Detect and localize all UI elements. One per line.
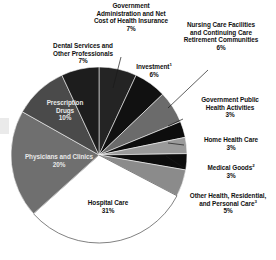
slice-label-government-public-health: Government Public Health Activities 3%: [184, 96, 276, 119]
label-line-2: and Continuing Care: [190, 29, 252, 36]
footnote-marker: 3: [254, 198, 256, 203]
label-line-1: Government Public: [201, 96, 259, 103]
label-line-1: Nursing Care Facilities: [187, 21, 255, 28]
slice-label-dental-services-other-professionals: Dental Services and Other Professionals …: [28, 42, 138, 65]
label-line-1: Medical Goods: [207, 164, 252, 171]
slice-label-investment: Investment1 6%: [119, 63, 189, 78]
label-percent: 3%: [186, 144, 276, 152]
label-line-2: Other Professionals: [53, 50, 113, 57]
label-line-2: Administration and Net: [96, 10, 165, 17]
footnote-marker: 1: [169, 62, 171, 67]
slice-label-nursing-care-facilities: Nursing Care Facilities and Continuing C…: [166, 21, 276, 51]
pie-chart-figure: Government Administration and Net Cost o…: [0, 0, 276, 260]
label-percent: 5%: [180, 207, 276, 215]
slice-label-home-health-care: Home Health Care 3%: [186, 136, 276, 151]
slice-label-prescription-drugs: Prescription Drugs 10%: [29, 99, 101, 122]
label-line-2: and Personal Care: [199, 200, 254, 207]
label-line-3: Retirement Communities: [184, 36, 259, 43]
label-line-1: Hospital Care: [88, 199, 129, 206]
scan-artifact: [0, 118, 9, 134]
footnote-marker: 2: [252, 163, 254, 168]
label-line-1: Prescription: [47, 99, 84, 106]
label-line-2: Health Activities: [206, 104, 255, 111]
label-line-1: Investment: [136, 63, 169, 70]
label-percent: 20%: [9, 161, 109, 169]
label-line-1: Physicians and Clinics: [25, 153, 93, 160]
label-percent: 7%: [28, 57, 138, 65]
label-line-1: Dental Services and: [53, 42, 113, 49]
label-line-1: Government: [112, 2, 149, 9]
label-line-1: Home Health Care: [204, 136, 258, 143]
label-percent: 3%: [184, 111, 276, 119]
label-percent: 6%: [119, 71, 189, 79]
label-percent: 31%: [62, 207, 154, 215]
label-percent: 3%: [186, 172, 276, 180]
label-line-2: Drugs: [56, 107, 74, 114]
slice-label-medical-goods: Medical Goods2 3%: [186, 164, 276, 179]
slice-label-physicians-and-clinics: Physicians and Clinics 20%: [9, 153, 109, 168]
label-percent: 10%: [29, 114, 101, 122]
slice-label-other-health-residential-personal-care: Other Health, Residential, and Personal …: [180, 192, 276, 215]
label-line-3: Cost of Health Insurance: [94, 17, 168, 24]
slice-label-hospital-care: Hospital Care 31%: [62, 199, 154, 214]
label-percent: 6%: [166, 44, 276, 52]
